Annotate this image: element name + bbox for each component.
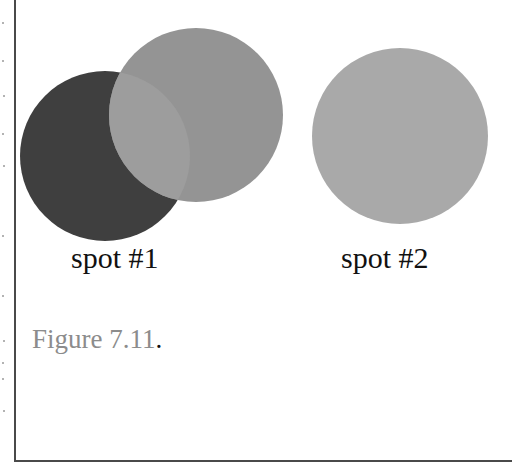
figure-caption-period: .: [156, 324, 163, 354]
figure-caption-text: Figure 7.11: [32, 324, 156, 354]
spot-2-group: [312, 48, 488, 224]
figure-caption: Figure 7.11.: [32, 325, 162, 353]
light-circle: [312, 48, 488, 224]
spots-diagram: [0, 0, 512, 475]
spot-1-label: spot #1: [71, 243, 159, 273]
spot-1-group: [20, 28, 283, 241]
spot-2-label: spot #2: [341, 243, 429, 273]
